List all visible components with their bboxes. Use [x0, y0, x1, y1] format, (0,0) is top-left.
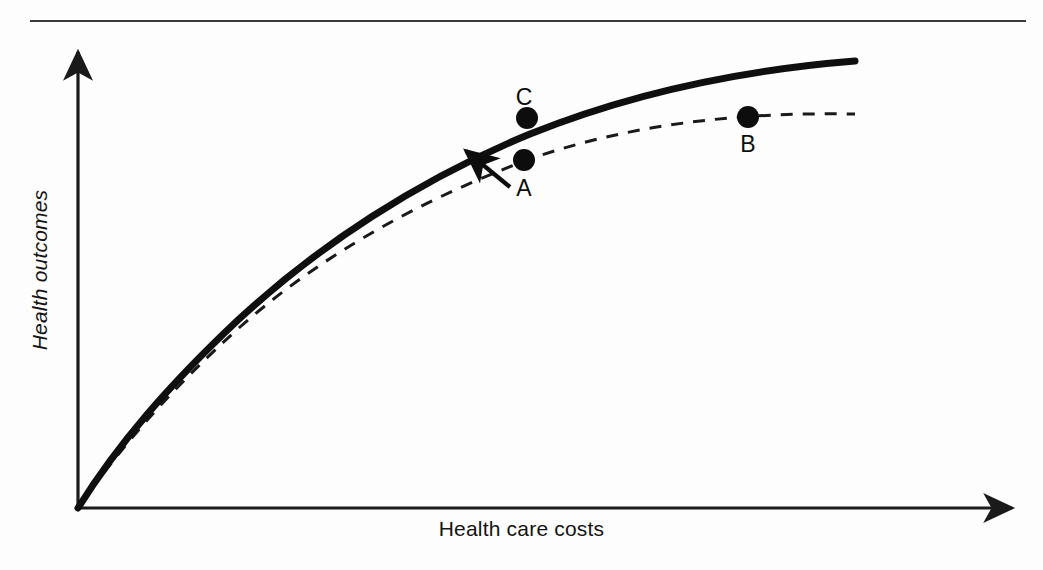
- series-improved-frontier: [78, 61, 855, 508]
- series-current-frontier: [78, 114, 855, 508]
- x-axis-title: Health care costs: [0, 517, 1043, 541]
- data-point-label-c: C: [504, 84, 544, 111]
- data-point-b: [737, 106, 759, 128]
- data-point-a: [513, 149, 535, 171]
- y-axis-title: Health outcomes: [28, 170, 52, 370]
- figure-canvas: C A B Health outcomes Health care costs: [0, 0, 1043, 570]
- data-point-label-b: B: [728, 131, 768, 158]
- data-point-label-a: A: [504, 175, 544, 202]
